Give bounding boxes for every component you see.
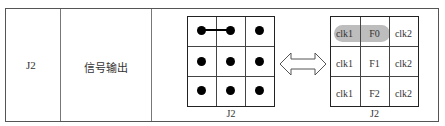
- pin-map-cell: clk2: [389, 58, 418, 69]
- pin-map-cell: F1: [360, 58, 389, 69]
- jumper-grid-label: J2: [187, 108, 275, 119]
- double-arrow-icon: [279, 51, 327, 77]
- pin-icon: [255, 26, 264, 35]
- pin-icon: [197, 26, 206, 35]
- pin-map-cell: clk1: [330, 28, 359, 39]
- pin-icon: [226, 26, 235, 35]
- pin-icon: [197, 86, 206, 95]
- pin-map-cell: clk2: [389, 28, 418, 39]
- pin-icon: [226, 57, 235, 66]
- pin-map-cell: F0: [360, 28, 389, 39]
- pin-icon: [255, 86, 264, 95]
- column-divider: [151, 9, 152, 121]
- pin-icon: [197, 57, 206, 66]
- pin-icon: [255, 57, 264, 66]
- pin-map-label: J2: [330, 108, 419, 119]
- pin-map-cell: clk2: [389, 88, 418, 99]
- jumper-function: 信号输出: [84, 59, 128, 75]
- jumper-id: J2: [26, 59, 36, 71]
- pin-map-cell: F2: [360, 88, 389, 99]
- pin-icon: [226, 86, 235, 95]
- pin-map-cell: clk1: [330, 58, 359, 69]
- column-divider: [60, 9, 61, 121]
- pin-map-cell: clk1: [330, 88, 359, 99]
